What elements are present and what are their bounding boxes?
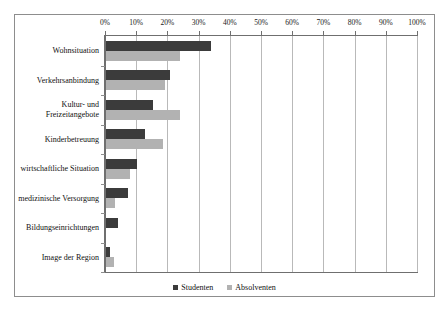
category-label: medizinische Versorgung <box>0 194 99 204</box>
chart-figure: 0%10%20%30%40%50%60%70%80%90%100% Wohnsi… <box>14 14 435 297</box>
legend-label: Studenten <box>181 283 213 292</box>
x-tick-label: 10% <box>129 18 143 27</box>
x-tick-label: 40% <box>223 18 237 27</box>
x-tick-label: 90% <box>379 18 393 27</box>
bar-absolventen <box>106 51 180 61</box>
legend-item-absolventen[interactable]: Absolventen <box>227 283 275 292</box>
x-tick-label: 100% <box>408 18 426 27</box>
bar-studenten <box>106 41 211 51</box>
y-tick-mark <box>101 272 105 273</box>
category-label: Image der Region <box>0 253 99 263</box>
x-tick-label: 30% <box>192 18 206 27</box>
bar-absolventen <box>106 139 163 149</box>
bar-row: medizinische Versorgung <box>105 184 417 214</box>
legend-swatch-icon <box>173 285 178 290</box>
legend-label: Absolventen <box>235 283 275 292</box>
bar-studenten <box>106 100 153 110</box>
legend-swatch-icon <box>227 285 232 290</box>
category-label: Wohnsituation <box>0 46 99 56</box>
bar-row: Bildungseinrichtungen <box>105 213 417 243</box>
bar-studenten <box>106 129 145 139</box>
bar-absolventen <box>106 110 180 120</box>
bar-absolventen <box>106 198 115 208</box>
category-label: Kinderbetreuung <box>0 135 99 145</box>
bar-studenten <box>106 218 118 228</box>
category-label: wirtschaftliche Situation <box>0 164 99 174</box>
x-tick-label: 50% <box>254 18 268 27</box>
bar-absolventen <box>106 169 130 179</box>
category-label: Bildungseinrichtungen <box>0 223 99 233</box>
x-tick-label: 60% <box>285 18 299 27</box>
gridline-100% <box>417 36 418 272</box>
bar-studenten <box>106 247 110 257</box>
bar-absolventen <box>106 80 165 90</box>
bar-row: Kinderbetreuung <box>105 125 417 155</box>
x-tick-label: 20% <box>161 18 175 27</box>
bar-studenten <box>106 188 128 198</box>
bar-studenten <box>106 70 170 80</box>
x-tick-label: 70% <box>317 18 331 27</box>
x-tick-label: 80% <box>348 18 362 27</box>
category-label: Kultur- und Freizeitangebote <box>0 100 99 119</box>
bar-absolventen <box>106 257 114 267</box>
plot-area: 0%10%20%30%40%50%60%70%80%90%100% Wohnsi… <box>104 35 418 273</box>
bar-studenten <box>106 159 137 169</box>
bar-row: Verkehrsanbindung <box>105 66 417 96</box>
category-label: Verkehrsanbindung <box>0 76 99 86</box>
bar-row: Image der Region <box>105 243 417 273</box>
legend-item-studenten[interactable]: Studenten <box>173 283 213 292</box>
bar-row: Kultur- und Freizeitangebote <box>105 95 417 125</box>
x-tick-label: 0% <box>100 18 110 27</box>
x-tick-mark <box>417 31 418 36</box>
bar-row: Wohnsituation <box>105 36 417 66</box>
chart-legend: StudentenAbsolventen <box>15 283 434 292</box>
bar-row: wirtschaftliche Situation <box>105 154 417 184</box>
